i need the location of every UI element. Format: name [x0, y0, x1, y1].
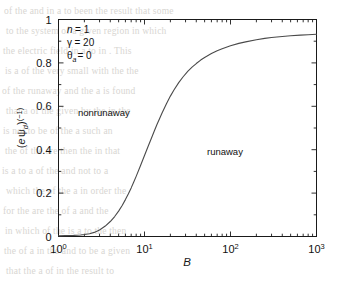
x-tick-label: 103: [308, 242, 324, 255]
region-label-nonrunaway: nonrunaway: [78, 107, 130, 118]
y-tick-label: 0: [45, 231, 51, 243]
y-tick-label: 0.6: [36, 100, 51, 112]
ylabel-psi: ψ: [15, 129, 27, 137]
svg-text:(eψd)(−1): (eψd)(−1): [15, 107, 30, 148]
annotation-theta-value: = 0: [77, 50, 92, 61]
annotation-gamma-symbol: γ: [67, 37, 72, 48]
annotation-n-symbol: n: [67, 24, 73, 35]
annotation-n-value: = 1: [75, 24, 90, 35]
annotation-theta: θa= 0: [67, 50, 92, 63]
x-tick-label: 102: [222, 242, 238, 255]
x-axis-ticks: [59, 20, 317, 237]
region-label-runaway: runaway: [207, 146, 243, 157]
y-axis-ticks: [59, 20, 317, 237]
plot-svg: 00.20.40.60.81 100101102103 B (eψd)(−1) …: [0, 0, 349, 281]
annotation-theta-subscript: a: [73, 56, 77, 63]
data-curve-runaway-boundary: [59, 34, 317, 236]
y-tick-label: 0.2: [36, 187, 51, 199]
y-tick-label: 0.8: [36, 57, 51, 69]
plot-frame: [59, 20, 317, 237]
x-tick-label: 101: [136, 242, 152, 255]
figure-container: of the and in a to been the result that …: [0, 0, 349, 281]
x-axis-label: B: [183, 256, 191, 268]
y-tick-label: 0.4: [36, 144, 51, 156]
ylabel-exponent: (−1): [15, 107, 24, 121]
annotation-gamma: γ= 20: [67, 37, 95, 48]
x-tick-labels: 100101102103: [50, 242, 324, 255]
ylabel-e: e: [15, 138, 27, 144]
y-axis-label: (eψd)(−1): [15, 107, 30, 148]
annotation-gamma-value: = 20: [75, 37, 95, 48]
annotation-n: n= 1: [67, 24, 90, 35]
y-tick-labels: 00.20.40.60.81: [36, 14, 51, 243]
x-tick-label: 100: [50, 242, 66, 255]
parameter-annotations: n= 1 γ= 20 θa= 0: [67, 24, 95, 63]
y-tick-label: 1: [45, 14, 51, 26]
